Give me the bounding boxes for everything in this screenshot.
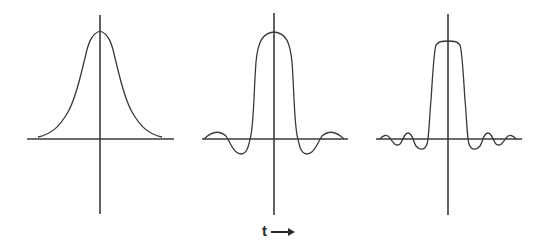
time-variable-label: t [262,222,267,239]
panel-narrow-sinc [376,14,522,215]
panel-sinc [202,13,348,215]
right-arrow-icon [271,231,293,233]
panel-gaussian [27,15,174,214]
time-axis-label: t [262,222,293,239]
pulse-shapes-diagram [0,0,549,245]
